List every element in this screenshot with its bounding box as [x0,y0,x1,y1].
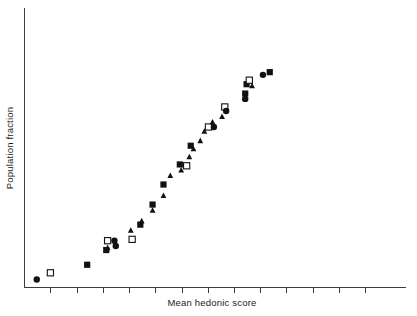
marker-triangle-filled [150,207,156,213]
marker-square-open [129,236,135,242]
marker-square-open [246,77,252,83]
marker-triangle-filled [197,138,203,144]
marker-square-open [105,238,111,244]
marker-triangle-filled [167,172,173,178]
marker-circle-filled [34,276,40,282]
marker-triangle-filled [128,227,134,233]
marker-square-filled [160,181,166,187]
scatter-plot-svg: Mean hedonic score Population fraction [0,0,417,316]
marker-triangle-filled [161,192,167,198]
marker-triangle-filled [210,119,216,125]
marker-circle-filled [211,124,217,130]
data-markers-group [34,69,273,283]
marker-square-filled [267,69,273,75]
marker-square-filled [149,201,155,207]
marker-circle-filled [260,72,266,78]
axes-group [24,8,406,288]
marker-circle-filled [223,108,229,114]
x-axis-label: Mean hedonic score [167,297,256,308]
marker-square-open [205,124,211,130]
marker-circle-filled [111,237,117,243]
marker-square-open [47,270,53,276]
marker-square-open [184,163,190,169]
marker-triangle-filled [139,218,145,224]
y-axis-label: Population fraction [4,107,15,190]
x-axis-ticks [51,288,366,293]
marker-triangle-filled [219,114,225,120]
chart-figure: Mean hedonic score Population fraction [0,0,417,316]
marker-circle-filled [242,96,248,102]
marker-square-filled [84,262,90,268]
marker-circle-filled [113,243,119,249]
marker-triangle-filled [186,154,192,160]
marker-square-filled [177,161,183,167]
